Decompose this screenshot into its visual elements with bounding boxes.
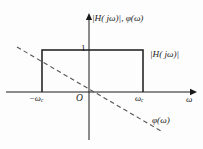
- frequency-response-diagram: |H( jω)|, φ(ω) |H( jω)| 1 O −ωc ωc ω φ(ω…: [0, 0, 203, 149]
- negative-cutoff-subscript: c: [41, 97, 43, 103]
- negative-cutoff-symbol: −ω: [29, 93, 41, 103]
- positive-cutoff-subscript: c: [141, 97, 143, 103]
- origin-label: O: [76, 94, 83, 104]
- negative-cutoff-label: −ωc: [29, 94, 43, 104]
- positive-cutoff-label: ωc: [135, 94, 143, 104]
- phase-curve-label: φ(ω): [152, 116, 170, 125]
- omega-axis-label: ω: [186, 95, 192, 104]
- vertical-axis-label: |H( jω)|, φ(ω): [92, 14, 143, 23]
- unity-gain-label: 1: [81, 44, 86, 53]
- magnitude-curve-label: |H( jω)|: [150, 50, 179, 59]
